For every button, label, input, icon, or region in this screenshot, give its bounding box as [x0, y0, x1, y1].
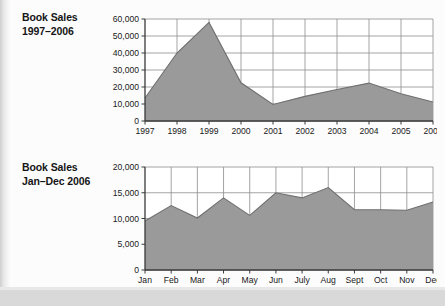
plot-area-yearly: 010,00020,00030,00040,00050,00060,000199… [107, 10, 437, 145]
x-tick-label: 1999 [199, 126, 218, 136]
x-tick-label: 2000 [231, 126, 250, 136]
y-tick-label: 50,000 [113, 31, 140, 41]
y-tick-label: 60,000 [113, 14, 140, 24]
x-tick-label: Nov [399, 275, 415, 285]
y-tick-label: 30,000 [113, 65, 140, 75]
x-tick-label: Oct [374, 275, 388, 285]
x-tick-label: 1998 [167, 126, 186, 136]
x-tick-label: Mar [190, 275, 205, 285]
y-tick-label: 15,000 [113, 188, 140, 198]
x-tick-label: 2003 [327, 126, 346, 136]
x-tick-label: 2002 [295, 126, 314, 136]
chart-page: Book Sales 1997–2006 010,00020,00030,000… [0, 0, 445, 306]
x-tick-label: Sept [346, 275, 364, 285]
y-tick-label: 5,000 [117, 239, 139, 249]
x-tick-label: July [294, 275, 310, 285]
plot-area-monthly: 05,00010,00015,00020,000JanFebMarAprMayJ… [107, 158, 437, 296]
area-chart-monthly: 05,00010,00015,00020,000JanFebMarAprMayJ… [107, 158, 437, 296]
chart-block-yearly: Book Sales 1997–2006 010,00020,00030,000… [0, 0, 445, 150]
x-tick-label: Aug [321, 275, 337, 285]
x-tick-label: 2004 [359, 126, 378, 136]
y-tick-label: 20,000 [113, 162, 140, 172]
area-chart-yearly: 010,00020,00030,00040,00050,00060,000199… [107, 10, 437, 145]
x-tick-label: Dec [425, 275, 437, 285]
x-tick-label: 2001 [263, 126, 282, 136]
x-tick-label: Jan [138, 275, 152, 285]
x-tick-label: 2006 [423, 126, 437, 136]
x-tick-label: 1997 [135, 126, 154, 136]
x-tick-label: Jun [269, 275, 283, 285]
chart-block-monthly: Book Sales Jan–Dec 2006 05,00010,00015,0… [0, 150, 445, 296]
y-tick-label: 10,000 [113, 99, 140, 109]
x-tick-label: May [242, 275, 259, 285]
y-tick-label: 10,000 [113, 214, 140, 224]
x-tick-label: Apr [217, 275, 231, 285]
y-tick-label: 20,000 [113, 82, 140, 92]
y-tick-label: 40,000 [113, 48, 140, 58]
x-tick-label: Feb [164, 275, 179, 285]
x-tick-label: 2005 [391, 126, 410, 136]
